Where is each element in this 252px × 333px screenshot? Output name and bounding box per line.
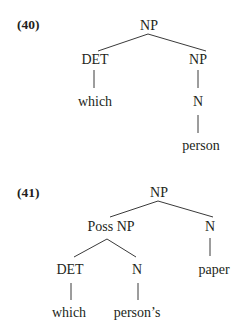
- leaf-paper: paper: [198, 263, 229, 277]
- branch-np-possnp: [110, 201, 158, 217]
- branch-possnp-n: [107, 239, 136, 257]
- example-number: (40): [17, 18, 40, 32]
- node-np-root: NP: [140, 19, 158, 33]
- branch-possnp-det: [74, 239, 107, 257]
- tree-branches: [0, 0, 252, 333]
- example-number: (41): [17, 186, 40, 200]
- leaf-which: which: [52, 306, 86, 320]
- branch-np-n: [158, 201, 213, 217]
- branch-np-np: [148, 34, 206, 51]
- node-det: DET: [56, 263, 83, 277]
- leaf-person: person: [182, 139, 219, 153]
- node-np: NP: [189, 53, 207, 67]
- node-n: N: [193, 95, 203, 109]
- node-n-right: N: [205, 220, 215, 234]
- node-n-mid: N: [132, 263, 142, 277]
- leaf-which: which: [78, 95, 112, 109]
- leaf-persons: person’s: [114, 306, 161, 320]
- branch-np-det: [98, 34, 148, 51]
- node-np-root: NP: [150, 186, 168, 200]
- node-det: DET: [81, 53, 108, 67]
- node-poss-np: Poss NP: [87, 220, 134, 234]
